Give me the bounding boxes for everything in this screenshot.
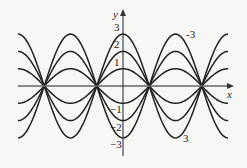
y-tick-label: 1 xyxy=(114,56,120,68)
y-tick-label: −2 xyxy=(110,121,122,133)
cosine-family-chart: x y 321−1−2−3 -3 3 xyxy=(0,0,247,168)
y-tick-label: 2 xyxy=(114,38,120,50)
y-axis-label: y xyxy=(112,8,118,20)
curve-label-neg3: -3 xyxy=(186,28,196,40)
y-axis-arrow-icon xyxy=(120,9,126,16)
x-axis-label: x xyxy=(226,88,232,100)
y-tick-label: 3 xyxy=(114,21,120,33)
y-tick-label: −3 xyxy=(110,138,122,150)
y-tick-label: −1 xyxy=(110,103,122,115)
curve-label-3: 3 xyxy=(183,132,189,144)
